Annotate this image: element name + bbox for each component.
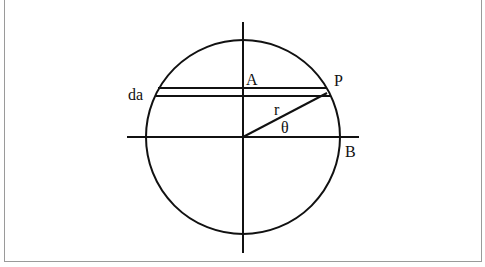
label-B: B xyxy=(345,143,356,160)
label-P: P xyxy=(334,72,343,89)
circle-strip-diagram: A P da r θ B xyxy=(0,0,485,267)
label-da: da xyxy=(128,86,143,103)
label-A: A xyxy=(246,71,258,88)
label-theta: θ xyxy=(281,119,289,136)
label-r: r xyxy=(274,101,280,118)
